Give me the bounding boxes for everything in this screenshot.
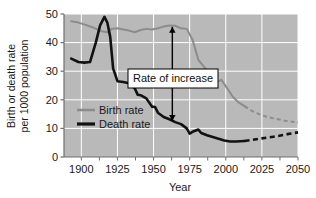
- y-axis-title-line-2: per 1000 population: [18, 39, 30, 132]
- annotation-box-rate-of-increase: Rate of increase: [128, 69, 218, 88]
- x-tick-label: 1975: [177, 163, 201, 175]
- annotation-label: Rate of increase: [133, 72, 213, 84]
- x-axis-tick-labels: 1900192519501975200020252050: [69, 163, 310, 175]
- chart-canvas: 01020304050 1900192519501975200020252050…: [0, 0, 316, 198]
- x-tick-label: 1950: [141, 163, 165, 175]
- y-tick-label: 10: [46, 122, 58, 134]
- legend-label-birth-rate: Birth rate: [99, 104, 144, 116]
- y-axis-title-line-1: Birth or death rate: [5, 44, 17, 128]
- x-tick-label: 1900: [69, 163, 93, 175]
- x-tick-label: 2050: [286, 163, 310, 175]
- x-tick-label: 2025: [250, 163, 274, 175]
- y-tick-label: 50: [46, 8, 58, 20]
- legend-label-death-rate: Death rate: [99, 118, 150, 130]
- figure-birth-death-rate: 01020304050 1900192519501975200020252050…: [0, 0, 316, 198]
- y-tick-label: 30: [46, 65, 58, 77]
- y-tick-label: 40: [46, 36, 58, 48]
- x-tick-label: 1925: [105, 163, 129, 175]
- x-tick-label: 2000: [214, 163, 238, 175]
- y-tick-label: 0: [52, 151, 58, 163]
- y-axis-tick-labels: 01020304050: [46, 8, 58, 163]
- y-tick-label: 20: [46, 94, 58, 106]
- x-axis-title: Year: [169, 181, 192, 193]
